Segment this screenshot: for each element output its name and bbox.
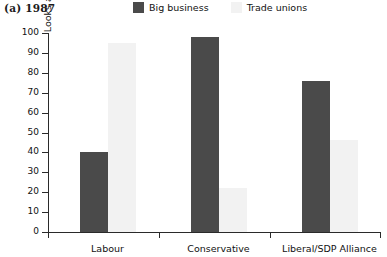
- y-axis-line: [48, 33, 49, 232]
- x-axis-line: [48, 232, 381, 233]
- y-axis-tick: 20: [42, 192, 48, 193]
- bar: [191, 37, 219, 232]
- bar-group: [80, 33, 136, 232]
- bar: [108, 43, 136, 232]
- chart-title: (a) 1987: [4, 2, 55, 14]
- y-axis-tick: 70: [42, 93, 48, 94]
- y-axis-tick-label: 0: [33, 226, 39, 236]
- bar: [330, 140, 358, 232]
- bar: [302, 81, 330, 232]
- y-axis-tick: 90: [42, 53, 48, 54]
- y-axis-tick-label: 100: [22, 27, 39, 37]
- square-swatch-icon: [133, 2, 144, 13]
- y-axis-tick-label: 60: [28, 107, 39, 117]
- x-axis-tick: [270, 232, 271, 238]
- legend-item-trade-unions: Trade unions: [231, 2, 308, 13]
- x-axis-category-label: Liberal/SDP Alliance: [282, 243, 377, 254]
- x-axis-tick: [380, 232, 381, 238]
- bar: [219, 188, 247, 232]
- bar-group: [302, 33, 358, 232]
- legend-label: Trade unions: [247, 2, 308, 13]
- y-axis-tick-label: 30: [28, 166, 39, 176]
- y-axis-tick-label: 70: [28, 87, 39, 97]
- y-axis-tick: 10: [42, 212, 48, 213]
- y-axis-tick-label: 10: [28, 206, 39, 216]
- y-axis-tick-label: 40: [28, 146, 39, 156]
- plot-area: 'Looks after interests closely' (%) 0102…: [48, 33, 381, 232]
- legend-label: Big business: [149, 2, 209, 13]
- bar-group: [191, 33, 247, 232]
- y-axis-tick-label: 80: [28, 67, 39, 77]
- y-axis-tick: 50: [42, 133, 48, 134]
- y-axis-tick: 80: [42, 73, 48, 74]
- y-axis-tick-label: 90: [28, 47, 39, 57]
- y-axis-tick-label: 50: [28, 127, 39, 137]
- y-axis-tick: 30: [42, 172, 48, 173]
- y-axis-tick: 60: [42, 113, 48, 114]
- x-axis-tick: [159, 232, 160, 238]
- y-axis-tick: 100: [42, 33, 48, 34]
- y-axis-tick-label: 20: [28, 186, 39, 196]
- square-swatch-icon: [231, 2, 242, 13]
- y-axis-tick: 40: [42, 152, 48, 153]
- legend-item-big-business: Big business: [133, 2, 209, 13]
- bar: [80, 152, 108, 232]
- x-axis-tick: [48, 232, 49, 238]
- chart-legend: Big business Trade unions: [133, 2, 307, 13]
- x-axis-category-label: Labour: [91, 243, 124, 254]
- x-axis-category-label: Conservative: [187, 243, 249, 254]
